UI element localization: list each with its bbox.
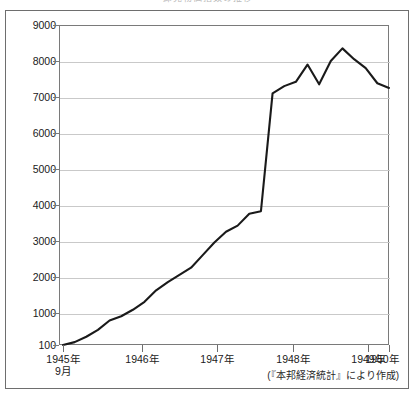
y-axis-tick xyxy=(53,205,59,206)
x-axis-tick xyxy=(389,345,390,352)
x-axis-tick-label: 1947年 xyxy=(200,353,233,365)
x-axis-tick-label: 1948年 xyxy=(276,353,309,365)
y-axis-tick xyxy=(53,169,59,170)
y-axis-tick-label: 5000 xyxy=(8,164,56,174)
x-axis-tick xyxy=(142,345,143,352)
y-axis-tick-label: 8000 xyxy=(8,56,56,66)
y-axis-tick xyxy=(53,277,59,278)
y-axis-tick xyxy=(53,25,59,26)
source-note: (『本邦経済統計』により作成) xyxy=(267,370,399,382)
y-axis-tick xyxy=(53,313,59,314)
y-axis-labels: 100100020003000400050006000700080009000 xyxy=(4,25,56,346)
y-axis-tick-label: 100 xyxy=(8,340,56,350)
x-axis-tick xyxy=(63,345,64,352)
y-axis-tick-label: 4000 xyxy=(8,200,56,210)
x-axis-tick-label: 1945年9月 xyxy=(46,353,79,377)
x-axis-tick-sublabel: 9月 xyxy=(46,365,79,377)
y-axis-tick xyxy=(53,61,59,62)
y-axis-tick-label: 7000 xyxy=(8,92,56,102)
x-axis-tick xyxy=(293,345,294,352)
y-axis-tick xyxy=(53,241,59,242)
y-axis-tick-label: 9000 xyxy=(8,20,56,30)
y-axis-tick-label: 6000 xyxy=(8,128,56,138)
x-axis-tick xyxy=(217,345,218,352)
x-axis-tick-label: 1946年 xyxy=(125,353,158,365)
y-axis-tick xyxy=(53,133,59,134)
series-polyline xyxy=(63,48,389,345)
y-axis-tick-label: 2000 xyxy=(8,272,56,282)
x-axis-tick-label: 1950年 xyxy=(365,353,398,365)
y-axis-tick-label: 1000 xyxy=(8,308,56,318)
series-line-chart xyxy=(59,25,389,345)
y-axis-tick xyxy=(53,345,59,346)
x-axis-tick xyxy=(368,345,369,352)
y-axis-tick xyxy=(53,97,59,98)
y-axis-tick-label: 3000 xyxy=(8,236,56,246)
chart-title: 卸売物価指数の推移 xyxy=(0,0,415,3)
